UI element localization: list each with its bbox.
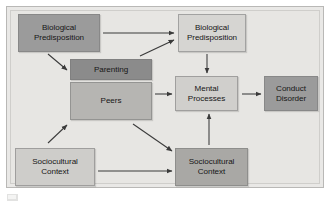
node-mental-processes: Mental Processes <box>175 76 238 111</box>
node-conduct-disorder: Conduct Disorder <box>264 76 318 111</box>
node-biological-predisposition-left: Biological Predisposition <box>18 14 100 52</box>
diagram-screenshot: Biological Predisposition Biological Pre… <box>0 0 332 208</box>
node-sociocultural-context-right: Sociocultural Context <box>175 148 248 186</box>
scan-artifact <box>7 194 18 201</box>
node-biological-predisposition-right: Biological Predisposition <box>178 14 246 52</box>
node-peers: Peers <box>70 82 152 120</box>
node-sociocultural-context-left: Sociocultural Context <box>15 148 95 186</box>
node-parenting: Parenting <box>70 59 152 80</box>
